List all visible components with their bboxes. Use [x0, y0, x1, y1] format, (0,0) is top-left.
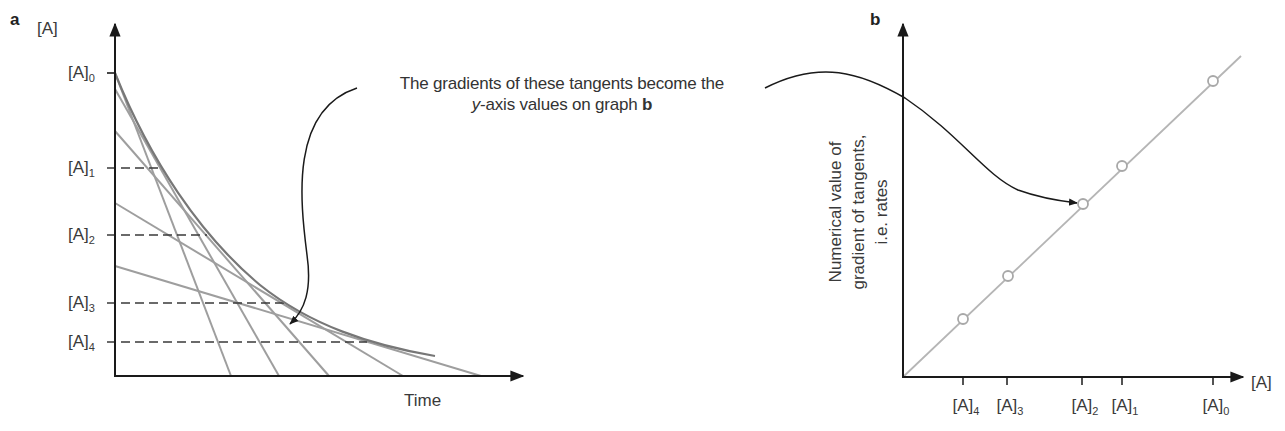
y-tick-A3: [A]3 — [68, 294, 95, 314]
caption-line-2: y-axis values on graph b — [362, 94, 762, 115]
caption-line-1: The gradients of these tangents become t… — [362, 73, 762, 94]
panel-label-b: b — [870, 10, 880, 30]
panel-label-a: a — [10, 10, 19, 30]
annotation-arrow-a — [290, 88, 357, 324]
graph-b — [902, 24, 1243, 385]
x-tick-A2: [A]2 — [1072, 396, 1099, 417]
graph-b-x-ticks — [963, 377, 1213, 385]
graph-a-y-axis-label: [A] — [37, 20, 58, 37]
x-tick-A0: [A]0 — [1203, 396, 1230, 417]
x-tick-A3: [A]3 — [997, 396, 1024, 417]
graph-b-y-axis-label: Numerical value of gradient of tangents,… — [824, 82, 893, 342]
annotation-arrow-b — [765, 72, 1077, 203]
x-tick-A4: [A]4 — [953, 396, 980, 417]
y-tick-A1: [A]1 — [68, 159, 95, 179]
figure-canvas — [0, 0, 1285, 431]
graph-b-x-axis-label: [A] — [1251, 374, 1272, 391]
y-tick-A4: [A]4 — [68, 333, 95, 353]
annotation-caption: The gradients of these tangents become t… — [362, 73, 762, 115]
y-tick-A0: [A]0 — [68, 64, 95, 84]
rate-line — [903, 56, 1241, 377]
x-tick-A1: [A]1 — [1112, 396, 1139, 417]
graph-a-x-axis-label: Time — [404, 392, 441, 409]
dashed-guides — [107, 168, 367, 342]
tangent-lines — [115, 73, 481, 376]
y-tick-A2: [A]2 — [68, 226, 95, 246]
